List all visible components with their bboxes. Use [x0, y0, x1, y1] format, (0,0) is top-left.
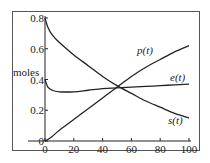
- x-tick-label: 100: [181, 143, 198, 155]
- chart: 02040608010000.20.40.60.8 moles p(t) e(t…: [0, 0, 210, 163]
- series-line-s: [45, 18, 189, 118]
- series-label-p: p(t): [136, 44, 153, 57]
- y-axis-label: moles: [13, 66, 39, 78]
- y-tick-label: 0.6: [30, 43, 44, 55]
- series-label-s: s(t): [168, 114, 183, 127]
- x-tick-label: 80: [155, 143, 167, 155]
- x-tick-label: 20: [68, 143, 80, 155]
- x-tick-label: 40: [97, 143, 109, 155]
- x-tick-label: 60: [126, 143, 138, 155]
- y-tick-label: 0.8: [30, 12, 44, 24]
- y-tick-label: 0.2: [30, 104, 44, 116]
- series-line-p: [45, 46, 189, 141]
- series-label-e: e(t): [170, 71, 186, 84]
- y-tick-label: 0: [39, 135, 45, 147]
